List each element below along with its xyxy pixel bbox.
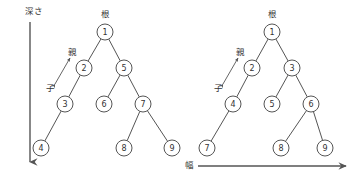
child-label: 子 xyxy=(214,83,223,93)
node-number-label: 8 xyxy=(121,144,126,153)
depth-axis-label: 深さ xyxy=(25,6,43,16)
node-number-label: 9 xyxy=(322,144,327,153)
tree-node[interactable]: 1 xyxy=(97,24,113,40)
node-number-label: 7 xyxy=(140,100,145,109)
tree-node[interactable]: 2 xyxy=(76,60,92,76)
tree-edge xyxy=(69,75,81,97)
tree-node[interactable]: 5 xyxy=(264,96,280,112)
parent-child-arrow xyxy=(55,58,70,84)
parent-child-arrow xyxy=(223,58,238,84)
tree-edge xyxy=(276,39,288,61)
parent-label: 親 xyxy=(68,47,77,57)
breadth-axis-label: 幅 xyxy=(185,160,194,170)
root-label: 根 xyxy=(268,9,277,19)
tree-node[interactable]: 2 xyxy=(244,60,260,76)
node-number-label: 1 xyxy=(102,28,107,37)
tree-node[interactable]: 7 xyxy=(199,140,215,156)
tree-edge xyxy=(127,111,140,140)
diagram-svg: 深さ幅親子根125367489親子根123456789 xyxy=(0,0,356,185)
tree-node[interactable]: 9 xyxy=(317,140,333,156)
parent-label: 親 xyxy=(236,47,245,57)
tree-node[interactable]: 4 xyxy=(33,140,49,156)
tree-edge xyxy=(109,39,121,61)
node-number-label: 5 xyxy=(269,100,274,109)
tree-edge xyxy=(88,39,101,61)
node-number-label: 7 xyxy=(204,144,209,153)
node-number-label: 2 xyxy=(249,64,254,73)
tree-node[interactable]: 6 xyxy=(303,96,319,112)
node-number-label: 9 xyxy=(169,144,174,153)
tree-node[interactable]: 8 xyxy=(116,140,132,156)
node-number-label: 1 xyxy=(269,28,274,37)
node-number-label: 5 xyxy=(121,64,126,73)
tree-node[interactable]: 4 xyxy=(225,96,241,112)
node-number-label: 2 xyxy=(81,64,86,73)
tree-edge xyxy=(128,75,140,97)
tree-node[interactable]: 5 xyxy=(116,60,132,76)
tree-diagram-canvas: 深さ幅親子根125367489親子根123456789 xyxy=(0,0,356,185)
node-number-label: 3 xyxy=(62,100,67,109)
breadth-first-tree: 親子根123456789 xyxy=(199,9,333,156)
tree-edge xyxy=(147,111,167,142)
tree-node[interactable]: 7 xyxy=(135,96,151,112)
tree-edge xyxy=(237,75,249,97)
depth-axis: 深さ xyxy=(25,6,43,162)
tree-edge xyxy=(296,75,308,97)
node-number-label: 6 xyxy=(308,100,313,109)
node-number-label: 8 xyxy=(278,144,283,153)
child-label: 子 xyxy=(46,83,55,93)
tree-edge xyxy=(286,111,307,142)
depth-first-tree: 親子根125367489 xyxy=(33,9,180,156)
tree-node[interactable]: 3 xyxy=(284,60,300,76)
tree-node[interactable]: 6 xyxy=(96,96,112,112)
tree-edge xyxy=(256,39,268,61)
tree-node[interactable]: 3 xyxy=(57,96,73,112)
breadth-axis: 幅 xyxy=(185,160,347,170)
tree-node[interactable]: 8 xyxy=(273,140,289,156)
node-number-label: 3 xyxy=(289,64,294,73)
tree-node[interactable]: 9 xyxy=(164,140,180,156)
node-number-label: 6 xyxy=(101,100,106,109)
tree-edge xyxy=(313,112,322,141)
tree-edge xyxy=(45,111,61,141)
tree-edge xyxy=(276,75,288,97)
node-number-label: 4 xyxy=(38,144,43,153)
root-label: 根 xyxy=(101,9,110,19)
tree-edge xyxy=(211,111,229,141)
tree-edge xyxy=(108,75,120,97)
node-number-label: 4 xyxy=(230,100,235,109)
tree-node[interactable]: 1 xyxy=(264,24,280,40)
